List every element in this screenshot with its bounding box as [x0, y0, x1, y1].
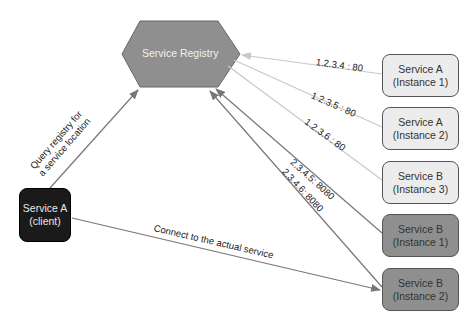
instance-b2[interactable]: Service B (Instance 2) [382, 268, 459, 311]
instance-line2: (Instance 2) [393, 290, 448, 303]
instance-line2: (Instance 1) [393, 76, 448, 89]
instance-line2: (Instance 3) [393, 183, 448, 196]
instance-line2: (Instance 1) [393, 236, 448, 249]
instance-line1: Service B [398, 277, 443, 290]
client-service-a[interactable]: Service A (client) [19, 188, 71, 242]
client-line2: (client) [29, 215, 61, 228]
instance-line1: Service A [398, 63, 442, 76]
instance-line1: Service A [398, 116, 442, 129]
instance-line1: Service B [398, 223, 443, 236]
instance-b1[interactable]: Service B (Instance 1) [382, 214, 459, 257]
instance-line1: Service B [398, 170, 443, 183]
instance-a1[interactable]: Service A (Instance 1) [382, 54, 459, 97]
instance-a2[interactable]: Service A (Instance 2) [382, 107, 459, 150]
instance-b3[interactable]: Service B (Instance 3) [382, 161, 459, 204]
registry-label: Service Registry [142, 47, 218, 59]
instance-line2: (Instance 2) [393, 129, 448, 142]
edge-connect [72, 218, 380, 290]
client-line1: Service A [23, 202, 67, 215]
